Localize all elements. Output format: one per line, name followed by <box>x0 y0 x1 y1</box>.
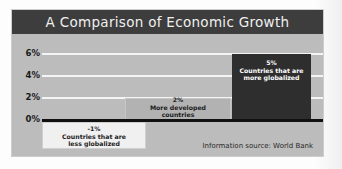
bar-caption-line2-less-globalized: less globalized <box>42 140 146 148</box>
y-tick-label-6pct: 6% <box>14 49 40 58</box>
y-tick-label-0pct: 0% <box>14 115 40 124</box>
plot-area: 6% 4% 2% 0% -1% Countries that are less … <box>12 34 323 156</box>
bar-label-more-developed: 2% More developed countries <box>125 96 231 119</box>
source-attribution: Information source: World Bank <box>203 142 313 150</box>
bar-value-more-developed: 2% <box>125 96 231 104</box>
bar-value-less-globalized: -1% <box>42 125 146 133</box>
chart-title-bar: A Comparison of Economic Growth <box>12 10 323 34</box>
economic-growth-chart: A Comparison of Economic Growth 6% 4% 2%… <box>12 10 323 156</box>
bar-caption-line1-less-globalized: Countries that are <box>42 133 146 141</box>
page-title: A Comparison of Economic Growth <box>46 14 290 30</box>
bar-value-more-globalized: 5% <box>232 59 311 67</box>
bar-caption-line2-more-developed: countries <box>125 111 231 119</box>
y-tick-label-2pct: 2% <box>14 93 40 102</box>
bar-label-more-globalized: 5% Countries that are more globalized <box>232 59 311 82</box>
bar-label-less-globalized: -1% Countries that are less globalized <box>42 125 146 148</box>
bar-caption-line1-more-developed: More developed <box>125 104 231 112</box>
bar-caption-line1-more-globalized: Countries that are <box>232 67 311 75</box>
y-tick-label-4pct: 4% <box>14 71 40 80</box>
bar-caption-line2-more-globalized: more globalized <box>232 74 311 82</box>
